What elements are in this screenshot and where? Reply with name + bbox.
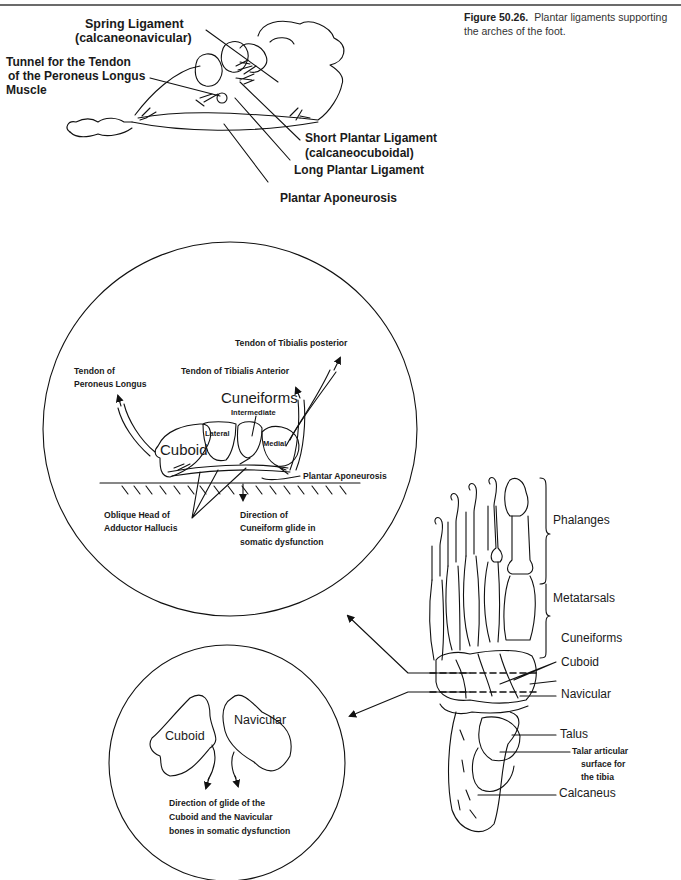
label-cuboid-circle: Cuboid xyxy=(160,441,208,458)
label-oblique-line2: Adductor Hallucis xyxy=(104,524,178,534)
label-cuboid-small: Cuboid xyxy=(165,729,205,743)
top-foot-drawing xyxy=(67,21,344,182)
label-short-plantar-sub: (calcaneocuboidal) xyxy=(305,147,414,161)
label-long-plantar: Long Plantar Ligament xyxy=(294,164,424,178)
label-tunnel-line3: Muscle xyxy=(6,84,47,98)
label-calcaneus: Calcaneus xyxy=(559,787,616,801)
label-navicular-foot: Navicular xyxy=(561,688,611,702)
label-plantar-aponeurosis-circle: Plantar Aponeurosis xyxy=(303,472,387,482)
label-direction-line3: somatic dysfunction xyxy=(240,538,324,548)
label-tibialis-posterior: Tendon of Tibialis posterior xyxy=(235,339,347,349)
label-short-plantar: Short Plantar Ligament xyxy=(305,132,437,146)
label-cuboid-foot: Cuboid xyxy=(561,656,599,670)
label-intermediate: Intermediate xyxy=(231,409,276,418)
label-talar-line3: the tibia xyxy=(581,773,614,783)
label-peroneus-line1: Tendon of xyxy=(74,367,115,377)
label-talar-line1: Talar articular xyxy=(572,747,628,757)
label-talus: Talus xyxy=(560,728,588,742)
label-tunnel-line1: Tunnel for the Tendon xyxy=(6,56,131,70)
foot-skeleton-drawing xyxy=(348,478,570,832)
label-direction-line2: Cuneiform glide in xyxy=(240,524,315,534)
label-oblique-line1: Oblique Head of xyxy=(104,511,170,521)
label-peroneus-line2: Peroneus Longus xyxy=(74,380,147,390)
label-glide-line2: Cuboid and the Navicular xyxy=(169,813,273,823)
label-tibialis-anterior: Tendon of Tibialis Anterior xyxy=(181,367,289,377)
label-plantar-aponeurosis-top: Plantar Aponeurosis xyxy=(280,192,397,206)
large-detail-circle xyxy=(43,242,417,616)
label-medial: Medial xyxy=(263,440,286,449)
label-direction-line1: Direction of xyxy=(240,511,288,521)
label-talar-line2: surface for xyxy=(581,760,625,770)
label-cuneiforms-foot: Cuneiforms xyxy=(561,632,622,646)
label-metatarsals: Metatarsals xyxy=(553,592,615,606)
label-tunnel-line2: of the Peroneus Longus xyxy=(8,70,145,84)
label-navicular-small: Navicular xyxy=(234,713,286,727)
label-glide-line1: Direction of glide of the xyxy=(169,799,265,809)
label-phalanges: Phalanges xyxy=(553,514,610,528)
label-lateral: Lateral xyxy=(205,430,230,439)
label-spring-ligament: Spring Ligament xyxy=(85,17,184,31)
label-spring-ligament-sub: (calcaneonavicular) xyxy=(75,31,192,45)
label-cuneiforms-circle: Cuneiforms xyxy=(221,389,298,406)
label-glide-line3: bones in somatic dysfunction xyxy=(169,827,290,837)
small-detail-circle xyxy=(109,645,345,880)
